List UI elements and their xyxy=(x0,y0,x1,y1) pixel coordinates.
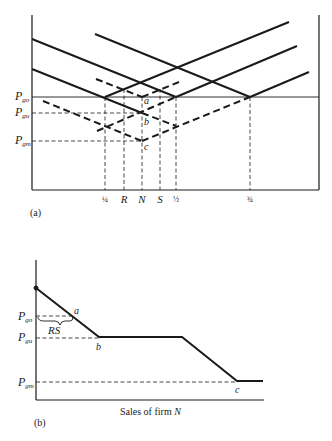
tick-N: N xyxy=(137,193,146,205)
tick-three-quarter: ¾ xyxy=(247,195,253,204)
b-pgo-label: Pgo xyxy=(17,309,33,324)
tick-quarter: ¼ xyxy=(102,195,108,204)
pgu-label: Pgu xyxy=(14,105,30,120)
b-point-a-label: a xyxy=(74,305,79,316)
panel-a-price-labels: Pgo Pgu Pgm xyxy=(14,89,31,148)
diagram-canvas: Pgo Pgu Pgm a b c ¼ R N S ½ ¾ (a) Pgo Pg… xyxy=(0,0,332,441)
pgo-label: Pgo xyxy=(14,89,30,104)
panel-a xyxy=(32,15,319,190)
point-a-label: a xyxy=(144,95,149,106)
tick-R: R xyxy=(120,193,128,205)
panel-a-label: (a) xyxy=(30,207,41,219)
point-c-label: c xyxy=(144,141,149,152)
panel-b-price-labels: Pgo Pgu Pgm xyxy=(17,309,34,390)
panel-b-label: (b) xyxy=(34,417,46,429)
b-pgu-label: Pgu xyxy=(17,330,33,345)
b-point-c-label: c xyxy=(235,384,240,395)
demand-line-1 xyxy=(32,39,176,97)
panel-b xyxy=(34,260,264,400)
supply-line-1 xyxy=(105,22,289,97)
pgm-label: Pgm xyxy=(14,133,31,148)
point-b-label: b xyxy=(144,116,149,127)
tick-S: S xyxy=(157,193,163,205)
dashed-demand-a xyxy=(96,79,142,97)
panel-b-xlabel: Sales of firm N xyxy=(120,406,182,417)
b-point-b-label: b xyxy=(96,341,101,352)
rs-label: RS xyxy=(47,324,61,336)
b-pgm-label: Pgm xyxy=(17,375,34,390)
sales-curve xyxy=(36,288,263,381)
curve-start-dot xyxy=(34,286,38,290)
dashed-supply-b xyxy=(97,97,176,131)
supply-line-2 xyxy=(176,46,297,97)
tick-half: ½ xyxy=(173,195,179,204)
supply-line-3 xyxy=(250,72,309,97)
